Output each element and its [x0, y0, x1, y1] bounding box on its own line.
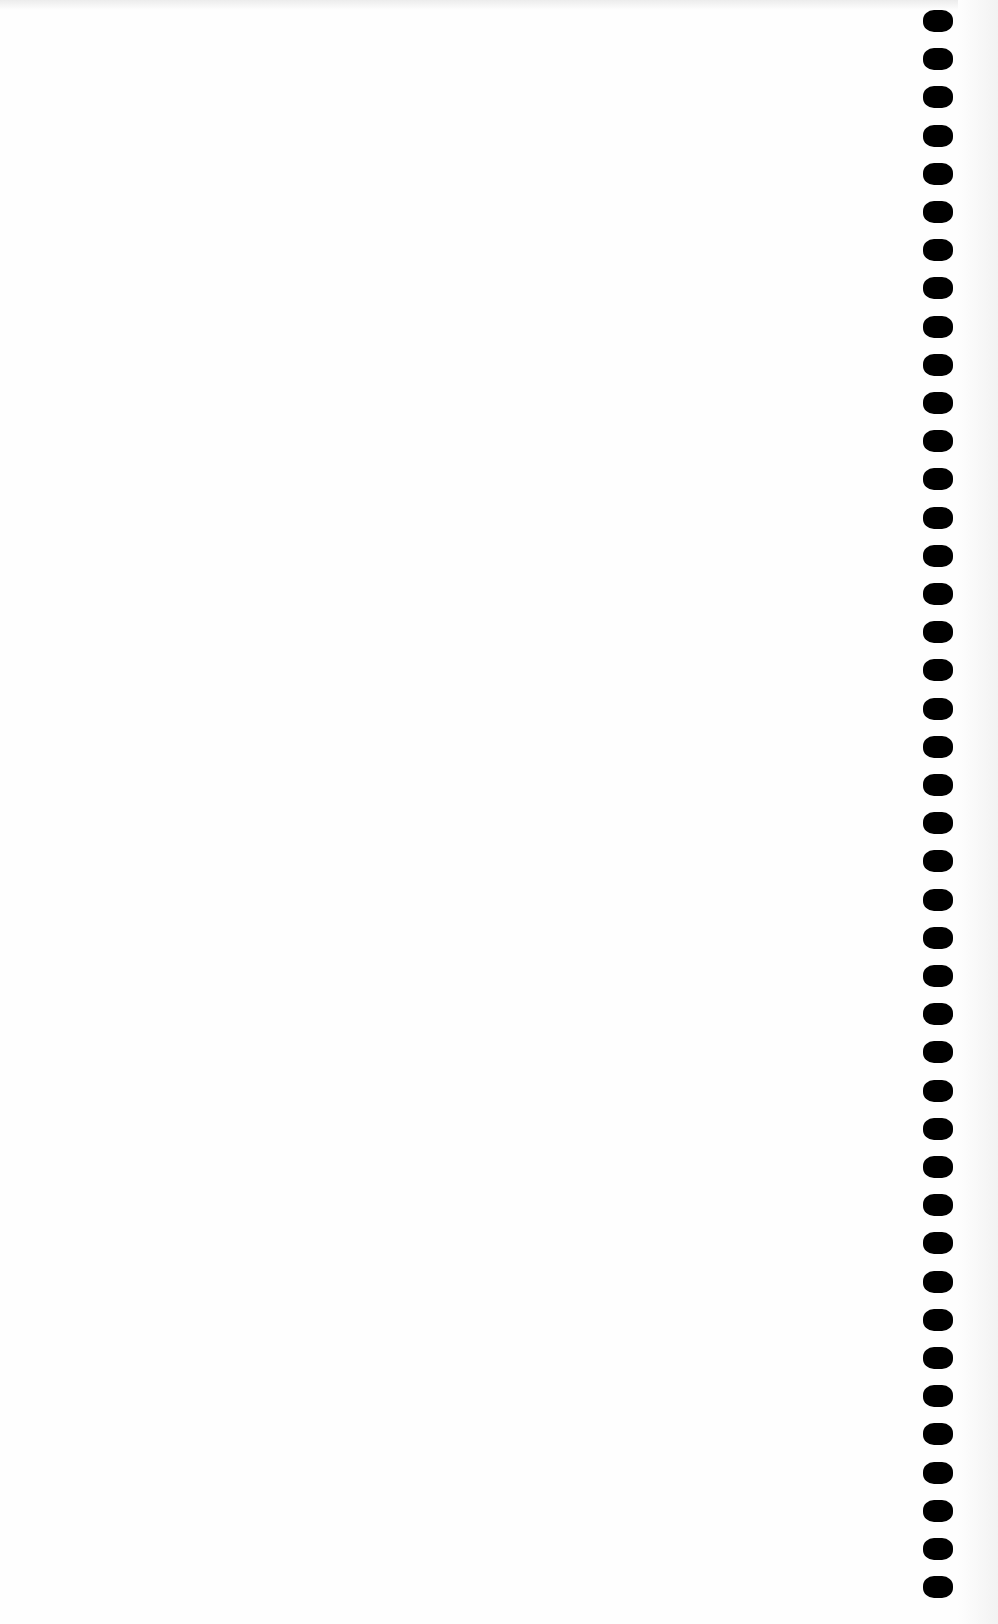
binder-hole	[923, 316, 953, 338]
binder-hole	[923, 86, 953, 108]
binder-hole	[923, 125, 953, 147]
binder-hole	[923, 468, 953, 490]
binder-hole	[923, 1232, 953, 1254]
binder-hole	[923, 545, 953, 567]
binder-hole	[923, 621, 953, 643]
binder-hole	[923, 1385, 953, 1407]
binder-hole	[923, 507, 953, 529]
binder-hole	[923, 1156, 953, 1178]
binder-hole	[923, 277, 953, 299]
binder-hole	[923, 927, 953, 949]
binder-hole	[923, 850, 953, 872]
binder-hole	[923, 1080, 953, 1102]
binder-hole	[923, 1576, 953, 1598]
binder-hole	[923, 48, 953, 70]
binder-hole	[923, 1347, 953, 1369]
binder-hole	[923, 1538, 953, 1560]
binder-hole	[923, 1003, 953, 1025]
binder-hole	[923, 201, 953, 223]
binder-hole	[923, 392, 953, 414]
binder-hole-column	[0, 0, 998, 1624]
binder-hole	[923, 354, 953, 376]
binder-hole	[923, 430, 953, 452]
binder-hole	[923, 1118, 953, 1140]
binder-hole	[923, 1500, 953, 1522]
binder-hole	[923, 1194, 953, 1216]
binder-hole	[923, 583, 953, 605]
binder-hole	[923, 812, 953, 834]
binder-hole	[923, 659, 953, 681]
binder-hole	[923, 698, 953, 720]
binder-hole	[923, 10, 953, 32]
binder-hole	[923, 163, 953, 185]
binder-hole	[923, 239, 953, 261]
binder-hole	[923, 1462, 953, 1484]
binder-hole	[923, 965, 953, 987]
binder-hole	[923, 1309, 953, 1331]
binder-hole	[923, 1041, 953, 1063]
binder-hole	[923, 736, 953, 758]
binder-hole	[923, 774, 953, 796]
binder-hole	[923, 1423, 953, 1445]
blank-page	[0, 0, 998, 1624]
binder-hole	[923, 889, 953, 911]
binder-hole	[923, 1271, 953, 1293]
